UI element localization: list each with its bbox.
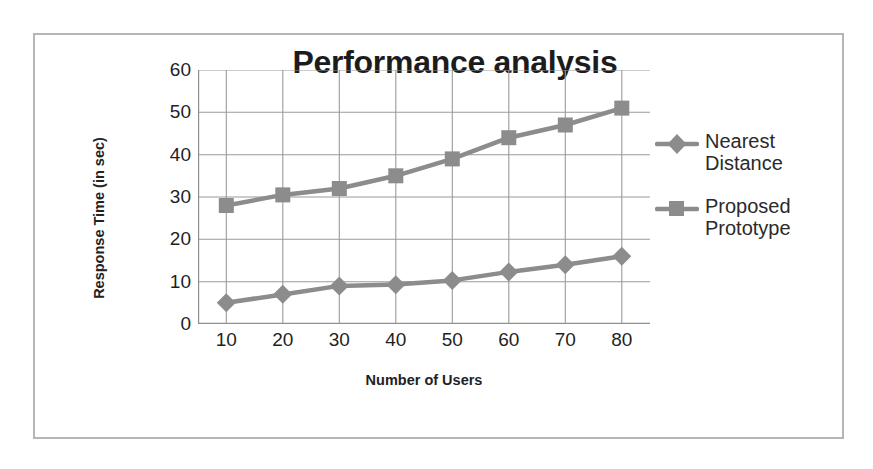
marker-diamond	[612, 247, 631, 266]
marker-square	[275, 187, 290, 202]
marker-diamond	[330, 276, 349, 295]
legend-square-marker-icon	[655, 197, 699, 221]
legend-label: Nearest Distance	[705, 130, 835, 175]
marker-square	[388, 168, 403, 183]
marker-square	[558, 118, 573, 133]
y-tick-label: 60	[151, 59, 191, 81]
data-series-layer	[217, 101, 632, 313]
series-2	[219, 101, 630, 213]
series-1	[217, 247, 632, 313]
x-tick-label: 10	[199, 329, 253, 351]
legend-diamond-marker-icon	[655, 132, 699, 156]
marker-diamond	[443, 271, 462, 290]
x-tick-label: 40	[369, 329, 423, 351]
x-tick-label: 30	[312, 329, 366, 351]
chart-figure-frame: Performance analysis Response Time (in s…	[33, 33, 844, 439]
legend-marker-diamond	[668, 134, 687, 154]
y-tick-label: 0	[151, 313, 191, 335]
x-tick-label: 20	[256, 329, 310, 351]
x-axis-tick-labels: 1020304050607080	[198, 329, 650, 359]
marker-diamond	[499, 262, 518, 281]
marker-diamond	[386, 275, 405, 294]
marker-square	[614, 101, 629, 116]
marker-square	[445, 151, 460, 166]
y-tick-label: 40	[151, 144, 191, 166]
marker-square	[219, 198, 234, 213]
x-tick-label: 70	[538, 329, 592, 351]
legend-entry[interactable]: Proposed Prototype	[655, 195, 845, 240]
y-axis-tick-labels: 6050403020100	[143, 70, 191, 324]
y-tick-label: 10	[151, 271, 191, 293]
y-tick-label: 50	[151, 101, 191, 123]
legend-entry[interactable]: Nearest Distance	[655, 130, 845, 175]
legend-label: Proposed Prototype	[705, 195, 835, 240]
legend-key-svg	[655, 197, 699, 221]
plot-area	[198, 70, 650, 324]
legend-key-svg	[655, 132, 699, 156]
chart-plot-svg	[198, 70, 650, 324]
marker-diamond	[556, 255, 575, 274]
marker-diamond	[217, 293, 236, 312]
y-tick-label: 30	[151, 186, 191, 208]
y-axis-title: Response Time (in sec)	[91, 108, 107, 328]
marker-square	[332, 181, 347, 196]
x-axis-title: Number of Users	[198, 372, 650, 388]
legend-marker-square	[669, 201, 684, 216]
y-tick-label: 20	[151, 228, 191, 250]
x-tick-label: 50	[425, 329, 479, 351]
marker-square	[501, 130, 516, 145]
chart-legend: Nearest DistanceProposed Prototype	[655, 130, 845, 260]
x-tick-label: 60	[482, 329, 536, 351]
x-tick-label: 80	[595, 329, 649, 351]
marker-diamond	[273, 285, 292, 304]
